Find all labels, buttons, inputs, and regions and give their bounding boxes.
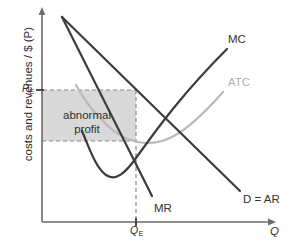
abnormal-profit-annotation: abnormal profit — [47, 108, 127, 136]
chart-canvas — [0, 0, 293, 244]
atc-curve-label: ATC — [228, 76, 250, 88]
abnormal-profit-line-1: abnormal — [47, 108, 127, 122]
mc-curve-label: MC — [228, 33, 246, 45]
quantity-axis-label-subscript: E — [138, 229, 143, 238]
quantity-axis-label-text: Q — [130, 224, 138, 236]
price-axis-label: PE — [22, 82, 34, 94]
demand-ar-curve-label: D = AR — [243, 193, 280, 205]
mr-curve-label: MR — [154, 202, 172, 214]
x-axis-title: Q — [270, 225, 279, 237]
quantity-axis-label: QE — [130, 224, 143, 236]
monopoly-abnormal-profit-figure: costs and revenues / $ (P) PE QE Q MC AT… — [0, 0, 293, 244]
price-axis-label-text: P — [22, 82, 29, 94]
abnormal-profit-line-2: profit — [47, 122, 127, 136]
y-axis-arrow — [39, 7, 46, 15]
price-axis-label-subscript: E — [29, 87, 34, 96]
